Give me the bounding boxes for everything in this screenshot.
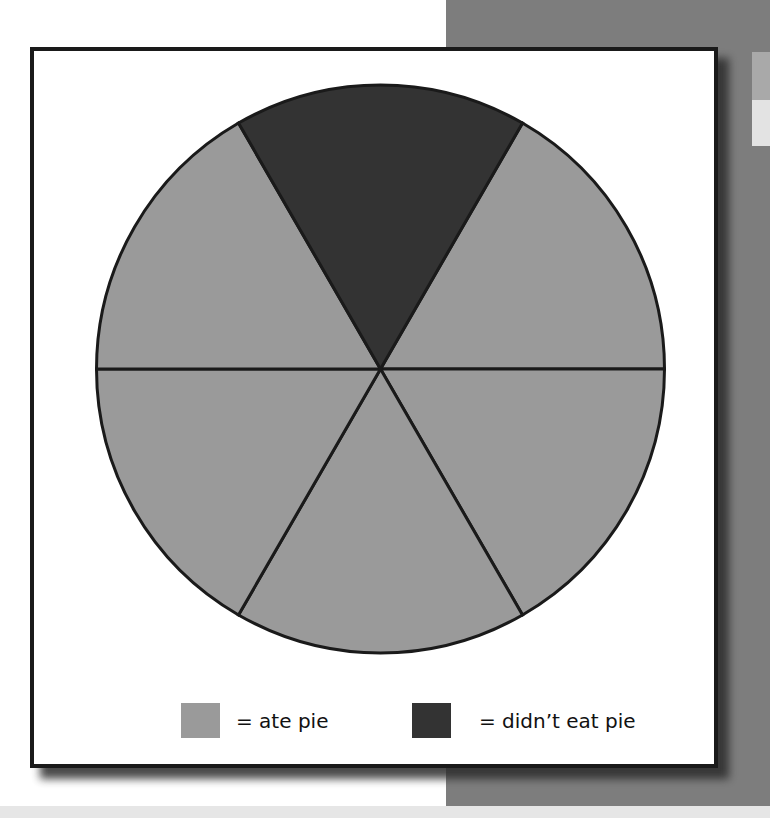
legend-label-not-ate: = didn’t eat pie — [479, 709, 636, 733]
pie-chart — [0, 0, 770, 818]
legend-swatch-not-ate — [412, 703, 451, 738]
legend-label-ate: = ate pie — [236, 709, 328, 733]
legend-item-not-ate: = didn’t eat pie — [412, 703, 636, 738]
legend-swatch-ate — [181, 703, 220, 738]
legend-item-ate: = ate pie — [181, 703, 328, 738]
